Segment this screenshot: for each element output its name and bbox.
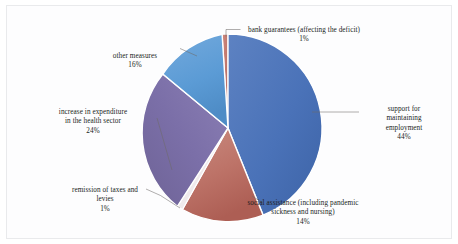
pie-label-other-measures-percent: 16% bbox=[92, 61, 178, 70]
pie-label-support-employment-percent: 44% bbox=[362, 133, 446, 142]
pie-label-remission-taxes-percent: 1% bbox=[48, 205, 162, 214]
pie-label-remission-taxes-text: remission of taxes and levies bbox=[72, 186, 138, 203]
pie-label-other-measures-text: other measures bbox=[113, 52, 157, 60]
pie-chart-figure: bank guarantees (affecting the deficit) … bbox=[0, 0, 458, 244]
pie-label-remission-taxes: remission of taxes and levies 1% bbox=[48, 177, 162, 223]
pie-label-support-employment: support for maintaining employment 44% bbox=[362, 96, 446, 151]
pie-label-bank-guarantees-percent: 1% bbox=[214, 35, 394, 44]
pie-label-other-measures: other measures 16% bbox=[92, 43, 178, 80]
pie-label-support-employment-text: support for maintaining employment bbox=[386, 105, 423, 131]
pie-label-bank-guarantees-text: bank guarantees (affecting the deficit) bbox=[248, 26, 360, 34]
pie-label-social-assistance-percent: 14% bbox=[232, 218, 374, 227]
pie-label-social-assistance: social assistance (including pandemic si… bbox=[232, 190, 374, 236]
pie-label-bank-guarantees: bank guarantees (affecting the deficit) … bbox=[214, 17, 394, 54]
pie-label-health-sector: increase in expenditure in the health se… bbox=[30, 99, 156, 145]
pie-label-social-assistance-text: social assistance (including pandemic si… bbox=[247, 199, 358, 216]
pie-label-health-sector-percent: 24% bbox=[30, 127, 156, 136]
pie-label-health-sector-text: increase in expenditure in the health se… bbox=[59, 108, 127, 125]
